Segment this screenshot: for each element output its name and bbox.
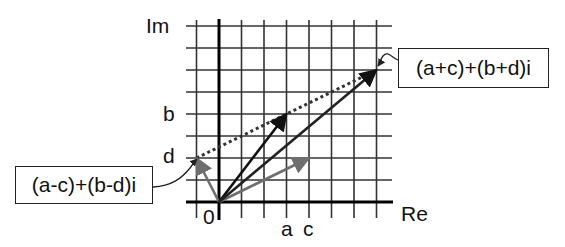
- sum-callout-box: (a+c)+(b+d)i: [398, 48, 549, 88]
- sum-callout-text: (a+c)+(b+d)i: [416, 56, 531, 80]
- tick-label-c: c: [303, 218, 314, 239]
- tick-label-a: a: [281, 218, 293, 239]
- diff-callout-connector: [153, 159, 197, 187]
- tick-label-d: d: [163, 145, 175, 166]
- axes: [186, 19, 393, 220]
- sum-callout-connector: [378, 54, 398, 66]
- diff-callout-box: (a-c)+(b-d)i: [15, 166, 153, 204]
- tick-label-b: b: [163, 103, 175, 124]
- imag-axis-label: Im: [146, 15, 169, 36]
- real-axis-label: Re: [401, 203, 428, 224]
- callout-connectors: [153, 54, 398, 187]
- complex-plane-svg: [0, 0, 565, 247]
- grid: [186, 20, 392, 218]
- complex-plane-diagram: Im Re 0 a c b d (a+c)+(b+d)i (a-c)+(b-d)…: [0, 0, 565, 247]
- diff-callout-text: (a-c)+(b-d)i: [32, 173, 136, 197]
- origin-label: 0: [203, 206, 215, 227]
